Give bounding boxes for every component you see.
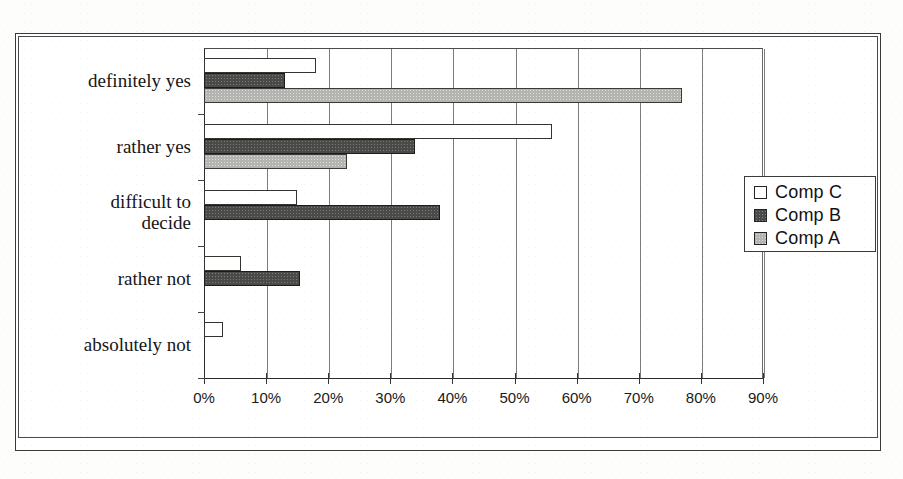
legend-label-comp-c: Comp C	[775, 182, 842, 203]
category-label: rather yes	[117, 136, 191, 157]
x-axis-tick-label: 70%	[609, 389, 669, 406]
x-axis-tick-label: 60%	[547, 389, 607, 406]
x-axis-tick-label: 40%	[422, 389, 482, 406]
bar-comp-c	[204, 58, 316, 73]
category-label: difficult to decide	[111, 191, 191, 233]
bar-comp-b	[204, 139, 415, 154]
legend-label-comp-a: Comp A	[775, 228, 840, 249]
x-axis-tick	[763, 373, 764, 384]
x-axis-tick	[577, 373, 578, 384]
x-axis-tick-label: 80%	[671, 389, 731, 406]
y-axis-tick	[198, 246, 205, 247]
category-label: absolutely not	[84, 334, 191, 355]
x-axis-tick-label: 90%	[733, 389, 793, 406]
x-axis-tick	[266, 373, 267, 384]
white-square-icon	[754, 186, 767, 199]
bar-comp-b	[204, 205, 440, 220]
legend-entry-comp-b[interactable]: Comp B	[754, 204, 875, 227]
x-axis-tick	[328, 373, 329, 384]
x-axis-tick-label: 20%	[298, 389, 358, 406]
grey-square-icon	[754, 232, 767, 245]
bar-comp-c	[204, 322, 223, 337]
bar-comp-c	[204, 256, 241, 271]
x-axis-line	[204, 378, 763, 379]
gridline	[702, 49, 703, 378]
legend-entry-comp-c[interactable]: Comp C	[754, 181, 875, 204]
category-label: rather not	[118, 268, 191, 289]
category-label: definitely yes	[88, 70, 191, 91]
bar-comp-a	[204, 154, 347, 169]
bar-comp-c	[204, 190, 297, 205]
x-axis-tick	[701, 373, 702, 384]
y-axis-tick	[198, 114, 205, 115]
y-axis-tick	[198, 180, 205, 181]
x-axis-tick-label: 30%	[360, 389, 420, 406]
dark-square-icon	[754, 209, 767, 222]
y-axis-tick	[198, 378, 205, 379]
chart-legend: Comp C Comp B Comp A	[744, 176, 876, 252]
legend-label-comp-b: Comp B	[775, 205, 841, 226]
x-axis-tick-label: 0%	[174, 389, 234, 406]
x-axis-tick	[639, 373, 640, 384]
bar-comp-a	[204, 88, 682, 103]
x-axis-tick-label: 10%	[236, 389, 296, 406]
scanned-page: 0%10%20%30%40%50%60%70%80%90%definitely …	[0, 0, 903, 479]
bar-comp-b	[204, 271, 300, 286]
x-axis-tick	[390, 373, 391, 384]
bar-comp-b	[204, 73, 285, 88]
x-axis-tick	[452, 373, 453, 384]
x-axis-tick-label: 50%	[485, 389, 545, 406]
bar-comp-c	[204, 124, 552, 139]
legend-entry-comp-a[interactable]: Comp A	[754, 227, 875, 250]
x-axis-tick	[515, 373, 516, 384]
y-axis-tick	[198, 312, 205, 313]
